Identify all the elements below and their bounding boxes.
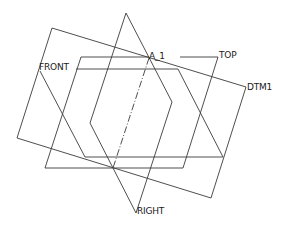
label-front[interactable]: FRONT <box>39 62 69 72</box>
datum-view-canvas[interactable]: DTM1 TOP FRONT RIGHT A_1 <box>0 0 287 228</box>
axis-a1[interactable] <box>113 58 149 168</box>
label-dtm1[interactable]: DTM1 <box>247 82 272 92</box>
datum-geometry <box>0 0 287 228</box>
label-axis-a1[interactable]: A_1 <box>149 51 165 61</box>
datum-plane-front-edge <box>45 69 76 168</box>
label-right[interactable]: RIGHT <box>137 206 164 216</box>
label-top[interactable]: TOP <box>219 50 236 60</box>
datum-plane-front[interactable] <box>40 69 223 157</box>
datum-plane-dtm1[interactable] <box>17 28 246 198</box>
